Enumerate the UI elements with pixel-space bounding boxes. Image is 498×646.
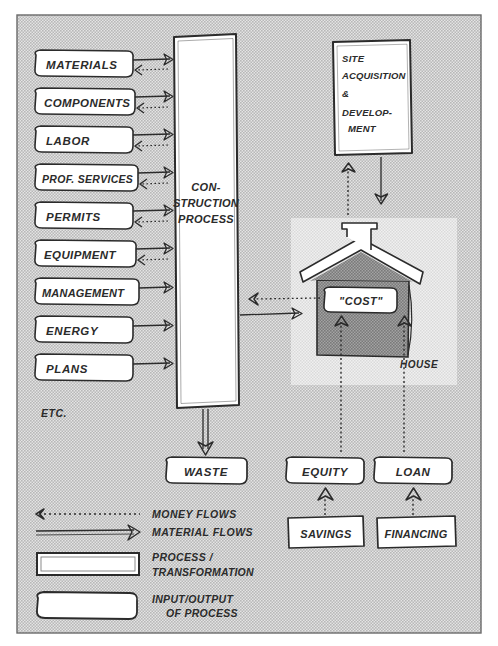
io-swatch [37, 592, 137, 619]
legend-io-label-line1: INPUT/OUTPUT [152, 593, 234, 605]
output-node-loan[interactable]: LOAN [374, 457, 452, 484]
legend-money-label: MONEY FLOWS [152, 508, 237, 520]
process-label-line1: CON- [191, 181, 221, 193]
construction-process-box[interactable]: CON- STRUCTION PROCESS [173, 34, 240, 408]
etc-label: ETC. [41, 407, 67, 419]
input-label: LABOR [46, 135, 90, 147]
site-label-line3: & [342, 88, 349, 99]
house-label: HOUSE [400, 359, 438, 370]
input-label: PERMITS [46, 211, 101, 223]
input-label: EQUIPMENT [44, 249, 117, 261]
source-node-financing[interactable]: FINANCING [377, 516, 456, 548]
savings-label: SAVINGS [300, 528, 352, 540]
input-label: PROF. SERVICES [42, 173, 133, 185]
output-node-waste[interactable]: WASTE [166, 457, 247, 484]
site-label-line4: DEVELOP- [342, 107, 392, 118]
input-label: PLANS [46, 363, 88, 375]
diagram-canvas: MATERIALS COMPONENTS LABOR PR [0, 0, 498, 646]
input-label: COMPONENTS [44, 97, 130, 109]
source-node-savings[interactable]: SAVINGS [288, 516, 364, 548]
waste-label: WASTE [184, 466, 228, 478]
cost-node[interactable]: "COST" [324, 287, 397, 313]
input-label: MATERIALS [46, 59, 118, 71]
financing-label: FINANCING [385, 528, 448, 540]
input-label: ENERGY [46, 325, 99, 337]
process-label-line3: PROCESS [178, 213, 234, 225]
site-acquisition-box[interactable]: SITE ACQUISITION & DEVELOP- MENT [333, 40, 412, 155]
loan-label: LOAN [396, 466, 431, 478]
process-label-line2: STRUCTION [173, 197, 240, 209]
legend-process-label-line1: PROCESS / [152, 551, 213, 563]
site-label-line2: ACQUISITION [341, 70, 406, 81]
legend-process-label-line2: TRANSFORMATION [152, 566, 254, 578]
equity-label: EQUITY [302, 466, 349, 478]
cost-label: "COST" [339, 295, 383, 307]
site-label-line1: SITE [342, 53, 365, 64]
site-label-line5: MENT [348, 123, 377, 134]
legend-io-label-line2: OF PROCESS [166, 607, 238, 619]
flow-diagram: MATERIALS COMPONENTS LABOR PR [0, 0, 498, 646]
process-swatch-inner [41, 557, 135, 571]
input-label: MANAGEMENT [42, 287, 125, 299]
legend-material-label: MATERIAL FLOWS [152, 526, 253, 538]
output-node-equity[interactable]: EQUITY [286, 457, 364, 484]
